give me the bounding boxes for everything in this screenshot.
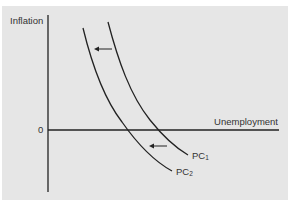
shift-arrow-upper-icon: [94, 47, 112, 52]
shift-arrow-lower-icon: [149, 144, 167, 149]
y-axis-label: Inflation: [10, 15, 43, 26]
pc1-label: PC1: [192, 150, 209, 161]
pc2-label: PC2: [176, 166, 193, 177]
origin-label: 0: [38, 124, 43, 135]
pc1-curve: [108, 22, 188, 155]
x-axis-label: Unemployment: [214, 116, 278, 127]
phillips-curve-chart: Inflation Unemployment 0 PC1 PC2: [0, 0, 291, 206]
